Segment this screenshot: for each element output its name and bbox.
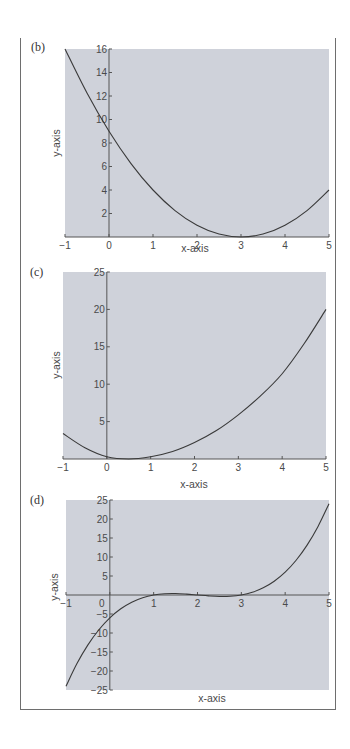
x-axis-label: x-axis: [180, 478, 207, 490]
y-tick-label: 10: [97, 552, 109, 563]
y-tick-label: 20: [94, 304, 106, 315]
x-tick-label: 1: [150, 240, 156, 251]
y-tick-label: 2: [101, 208, 107, 219]
y-tick-label: 10: [94, 379, 106, 390]
y-tick-label: −15: [91, 647, 108, 658]
y-tick-label: 5: [102, 571, 108, 582]
x-tick-label: 0: [104, 462, 110, 473]
x-axis-label: x-axis: [181, 242, 208, 254]
x-tick-label: 4: [282, 598, 288, 609]
x-tick-label: 4: [282, 240, 288, 251]
x-tick-label: 1: [148, 462, 154, 473]
y-tick-label: 8: [101, 138, 107, 149]
y-tick-label: −25: [91, 685, 108, 696]
x-tick-label: 1: [151, 598, 157, 609]
panel-label: (b): [31, 40, 45, 54]
x-tick-label: 4: [279, 462, 285, 473]
x-tick-label: 3: [236, 462, 242, 473]
y-tick-label: 12: [96, 91, 108, 102]
x-tick-label: 3: [239, 598, 245, 609]
x-tick-label: −1: [60, 598, 72, 609]
panel-label: (d): [30, 493, 44, 507]
y-axis-label: y-axis: [50, 351, 62, 378]
y-tick-label: −20: [91, 666, 108, 677]
chart-c: −1012345 510152025 (c) x-axis y-axis: [30, 265, 329, 490]
y-tick-label: 15: [97, 533, 109, 544]
y-tick-label: 14: [96, 67, 108, 78]
y-tick-label: 15: [94, 341, 106, 352]
y-tick-label: 20: [97, 514, 109, 525]
chart-b: −1012345 246810121416 (b) x-axis y-axis: [31, 40, 332, 254]
y-tick-label: 6: [101, 161, 107, 172]
x-tick-label: 3: [238, 240, 244, 251]
x-tick-label: 0: [99, 598, 105, 609]
x-axis-label: x-axis: [198, 692, 225, 704]
y-tick-label: 4: [101, 185, 107, 196]
y-tick-label: 25: [94, 267, 106, 278]
panel-label: (c): [30, 265, 43, 279]
x-tick-label: 2: [195, 598, 201, 609]
y-tick-label: 25: [97, 495, 109, 506]
y-tick-label: −5: [96, 609, 108, 620]
x-ticks: −1012345: [57, 456, 329, 473]
chart-d: −1012345 −25−20−15−10−5510152025 (d) x-a…: [30, 493, 332, 704]
x-tick-label: −1: [59, 240, 71, 251]
x-tick-label: 2: [192, 462, 198, 473]
x-tick-label: 0: [106, 240, 112, 251]
y-tick-label: 5: [99, 416, 105, 427]
plot-area: [63, 272, 326, 459]
y-tick-label: 16: [96, 44, 108, 55]
y-axis-label: y-axis: [48, 573, 60, 600]
x-tick-label: 5: [326, 598, 332, 609]
x-tick-label: −1: [57, 462, 69, 473]
x-tick-label: 5: [323, 462, 329, 473]
y-axis-label: y-axis: [50, 129, 62, 156]
charts-canvas: −1012345 246810121416 (b) x-axis y-axis …: [0, 0, 350, 749]
x-tick-label: 5: [326, 240, 332, 251]
